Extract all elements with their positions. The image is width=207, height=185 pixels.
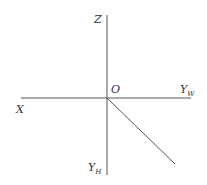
origin-label: O	[111, 84, 120, 95]
origin-label-text: O	[111, 83, 120, 96]
yw-label-sub: W	[187, 90, 194, 98]
axes-svg	[0, 0, 207, 185]
yw-axis-label: YW	[180, 84, 194, 98]
z-axis-label: Z	[94, 14, 102, 25]
x-axis-label: X	[16, 104, 24, 115]
z-label-text: Z	[94, 13, 102, 26]
yh-axis-label: YH	[88, 162, 101, 176]
x-label-text: X	[16, 103, 24, 116]
projection-axes-diagram: Z O YW X YH	[0, 0, 207, 185]
diagonal-45-line	[107, 98, 175, 164]
yh-label-sub: H	[95, 168, 101, 176]
